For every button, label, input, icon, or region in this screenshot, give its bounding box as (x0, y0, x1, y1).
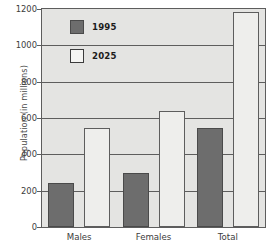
legend-label-1995: 1995 (92, 22, 117, 32)
gridline (42, 118, 265, 119)
bar-males-2025 (84, 128, 110, 227)
legend-label-2025: 2025 (92, 51, 117, 61)
bar-total-2025 (233, 12, 259, 227)
legend-swatch-2025 (70, 49, 84, 63)
legend-swatch-1995 (70, 20, 84, 34)
y-axis-tick-label: 1000 (7, 40, 37, 50)
bar-males-1995 (48, 183, 74, 227)
gridline (42, 82, 265, 83)
legend-item-1995: 1995 (70, 20, 117, 34)
x-axis-label-females: Females (136, 232, 172, 242)
bar-females-1995 (123, 173, 149, 228)
y-axis-tick-label: 200 (7, 186, 37, 196)
y-axis-tick-label: 1200 (7, 4, 37, 14)
bar-total-1995 (197, 128, 223, 227)
bar-females-2025 (159, 111, 185, 227)
gridline (42, 154, 265, 155)
y-axis-tick-label: 800 (7, 77, 37, 87)
gridline (42, 191, 265, 192)
legend-item-2025: 2025 (70, 49, 117, 63)
gridline (42, 45, 265, 46)
y-axis-tick-label: 600 (7, 113, 37, 123)
plot-area (41, 8, 266, 228)
x-axis-label-total: Total (218, 232, 238, 242)
bar-chart: Population (in millions) 020040060080010… (0, 0, 271, 251)
y-axis-tick-label: 0 (7, 222, 37, 232)
y-axis-tick-label: 400 (7, 149, 37, 159)
x-axis-label-males: Males (67, 232, 92, 242)
